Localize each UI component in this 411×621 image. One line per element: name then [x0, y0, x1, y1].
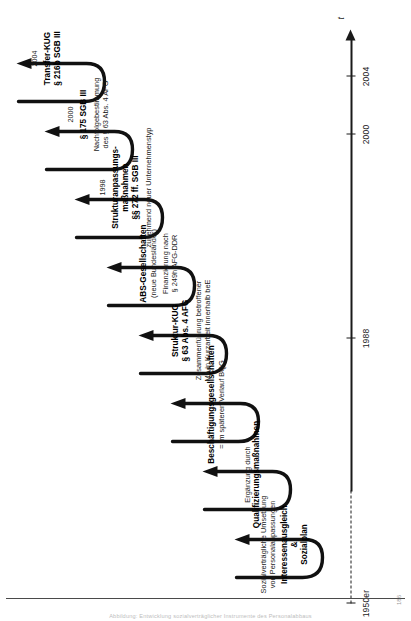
stage-7-subtext-line-1: Nachfolgebestimmung	[91, 39, 100, 189]
axis-label-2004: 2004	[360, 66, 370, 86]
stage-7-year: 2000	[66, 39, 75, 189]
axis-time-symbol: t	[335, 17, 345, 19]
figure-caption: Abbildung: Entwicklung sozialverträglich…	[30, 613, 391, 619]
stage-6-heading-line-3: §§ 272 ff. SGB III	[130, 105, 140, 269]
stage-4-heading-line-2: § 63 Abs. 4 AFG	[180, 255, 190, 405]
stage-block-paragraph-175-sgb-iii: 2000 § 175 SGB III Nachfolgebestimmung d…	[66, 39, 109, 189]
stage-1-heading-line-2: &	[289, 483, 299, 605]
axis-tick-2000	[346, 133, 355, 134]
stage-1-heading-line-3: Sozialplan	[299, 483, 309, 605]
axis-tick-2004	[346, 75, 355, 76]
stage-1-subtext-line-2: von Personalanpassungen	[267, 483, 276, 605]
axis-tick-1950er	[346, 602, 355, 603]
stage-1-heading-line-1: Interessenausgleich	[279, 483, 289, 605]
timeline-figure: 1950er 1988 2000 2004 t	[0, 0, 411, 621]
stage-block-qualifizierung: Ergänzung durch Qualifizierungsmaßnahmen	[242, 409, 261, 539]
stage-7-subtext-line-2: des § 63 Abs. 4 AFG	[100, 39, 109, 189]
stage-6-heading-line-2: maßnahmen	[120, 105, 130, 269]
timeline-axis: 1950er 1988 2000 2004 t	[350, 21, 352, 603]
stage-6-heading-line-1: Strukturanpassungs-	[110, 105, 120, 269]
stage-block-interessenausgleich: Sozialverträgliche Umsetzung von Persona…	[258, 483, 309, 605]
stage-6-subtext-line-1: zunehmend neuer Unternehmenstyp	[143, 105, 152, 269]
stage-7-heading-line-1: § 175 SGB III	[78, 39, 88, 189]
stage-5-subtext-line-3: § 249h AFG-DDR	[169, 193, 178, 333]
stage-block-transfer-kug: 2004 Transfer-KUG § 216b SGB III	[30, 0, 62, 123]
stage-4-subtext-line-1: Zusammenführung betroffener	[193, 255, 202, 405]
stage-8-heading-line-2: § 216b SGB III	[52, 0, 62, 123]
stage-2-subtext-line-1: Ergänzung durch	[242, 409, 251, 539]
stage-2-heading-line-1: Qualifizierungsmaßnahmen	[251, 409, 261, 539]
page-divider	[6, 598, 405, 599]
axis-label-1988: 1988	[360, 328, 370, 348]
stage-3-subtext-line-1: = im späteren Verlauf BQG	[216, 329, 225, 479]
stage-8-heading-line-1: Transfer-KUG	[42, 0, 52, 123]
axis-tick-1988	[346, 337, 355, 338]
stage-5-subtext-line-2: Finanzierung nach	[160, 193, 169, 333]
axis-solid-segment	[350, 36, 352, 491]
stage-8-year: 2004	[30, 0, 39, 123]
page-canvas: 1950er 1988 2000 2004 t	[0, 0, 411, 621]
page-number: 186	[396, 595, 402, 605]
axis-dashed-segment	[350, 490, 351, 603]
stage-4-subtext-line-2: MA in Kurzarbeit innerhalb beE	[202, 255, 211, 405]
axis-label-2000: 2000	[360, 124, 370, 144]
axis-arrowhead-icon	[345, 29, 355, 40]
